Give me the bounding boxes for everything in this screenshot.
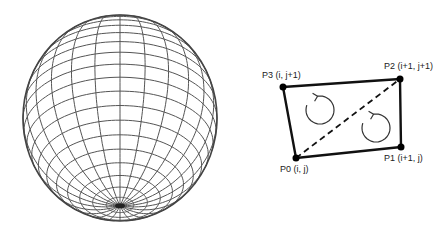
vertex-p1 [398,144,405,151]
vertex-p3 [280,84,287,91]
point-label-p3: P3 (i, j+1) [262,70,301,80]
quad-diagram [280,76,405,162]
diagonal-dashed [296,79,400,158]
wireframe-sphere [23,15,217,221]
diagram-canvas [0,0,446,230]
rotation-arrow-1 [362,114,390,142]
point-label-p2: P2 (i+1, j+1) [384,61,433,71]
vertex-p0 [293,155,300,162]
point-label-p1: P1 (i+1, j) [384,153,423,163]
rotation-arrow-0 [306,96,334,124]
point-label-p0: P0 (i, j) [280,164,309,174]
vertex-p2 [397,76,404,83]
